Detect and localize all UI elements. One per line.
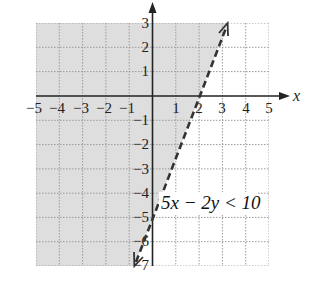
svg-text:−4: −4 xyxy=(133,185,149,201)
svg-text:−4: −4 xyxy=(49,100,65,116)
svg-text:−2: −2 xyxy=(96,100,112,116)
svg-text:−3: −3 xyxy=(133,161,149,177)
svg-text:5: 5 xyxy=(265,100,273,116)
equation-label: 5x − 2y < 10 xyxy=(159,192,261,214)
x-axis-arrow-icon xyxy=(279,92,290,100)
svg-text:1: 1 xyxy=(142,63,150,79)
svg-text:−2: −2 xyxy=(133,136,149,152)
svg-text:5x − 2y < 10: 5x − 2y < 10 xyxy=(161,192,261,213)
svg-text:4: 4 xyxy=(242,100,250,116)
y-axis-arrow-icon xyxy=(149,2,157,13)
x-axis-label: x xyxy=(292,87,300,104)
svg-text:−5: −5 xyxy=(26,100,42,116)
svg-text:−1: −1 xyxy=(133,112,149,128)
svg-text:1: 1 xyxy=(172,100,180,116)
svg-text:−3: −3 xyxy=(73,100,89,116)
svg-text:2: 2 xyxy=(142,39,150,55)
inequality-graph: x −5 −4 −3 −2 −1 1 2 3 4 5 3 2 1 −1 −2 −… xyxy=(0,0,313,301)
svg-text:−5: −5 xyxy=(133,209,149,225)
svg-text:3: 3 xyxy=(142,15,150,31)
svg-text:3: 3 xyxy=(218,100,226,116)
